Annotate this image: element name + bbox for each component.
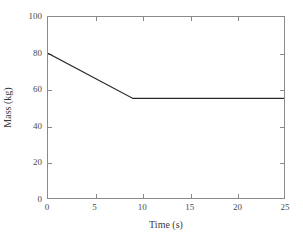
y-axis-label: Mass (kg) xyxy=(0,16,14,199)
x-tick-label-0: 0 xyxy=(45,203,50,212)
x-tick-label-15: 15 xyxy=(185,203,194,212)
data-line-canvas xyxy=(48,17,284,198)
data-series-mass xyxy=(48,53,284,98)
x-axis-label: Time (s) xyxy=(47,219,285,230)
plot-area xyxy=(47,16,285,199)
y-tick-label-40: 40 xyxy=(33,121,42,130)
x-tick-label-5: 5 xyxy=(92,203,97,212)
y-tick-label-0: 0 xyxy=(38,195,43,204)
figure: Mass (kg) 0 20 40 60 80 100 0 5 10 15 20… xyxy=(0,0,303,240)
x-tick-label-10: 10 xyxy=(138,203,147,212)
y-axis-label-text: Mass (kg) xyxy=(2,87,13,127)
y-tick-label-60: 60 xyxy=(33,85,42,94)
x-tick-label-25: 25 xyxy=(281,203,290,212)
y-tick-label-80: 80 xyxy=(33,48,42,57)
x-tick-label-20: 20 xyxy=(233,203,242,212)
y-tick-label-100: 100 xyxy=(29,12,43,21)
y-tick-label-20: 20 xyxy=(33,158,42,167)
